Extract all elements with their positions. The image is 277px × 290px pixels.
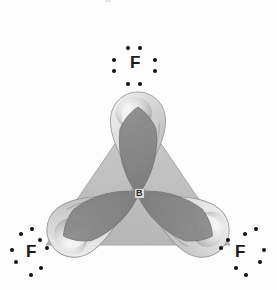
- electron-dot: [29, 273, 33, 277]
- scan-artifact-top: [105, 0, 111, 2]
- electron-dot: [112, 69, 116, 73]
- atom-label-fluorine-bottom-right: F: [235, 243, 245, 260]
- electron-dot: [10, 248, 14, 252]
- electron-dot: [14, 260, 18, 264]
- atom-label-boron: B: [135, 189, 144, 198]
- electron-dot: [226, 238, 230, 242]
- electron-dot: [19, 232, 23, 236]
- electron-dot: [254, 227, 258, 231]
- electron-dot: [112, 58, 116, 62]
- diagram-canvas: B F F F: [0, 0, 277, 290]
- electron-dot: [219, 246, 223, 250]
- electron-dot: [39, 266, 43, 270]
- electron-dot: [244, 273, 248, 277]
- electron-dot: [243, 232, 247, 236]
- electron-dot: [138, 46, 142, 50]
- electron-dot: [234, 266, 238, 270]
- electron-dot: [138, 82, 142, 86]
- atom-label-fluorine-top: F: [130, 54, 140, 71]
- electron-dot: [258, 260, 262, 264]
- electron-dot: [126, 82, 130, 86]
- electron-dot: [262, 248, 266, 252]
- electron-dot: [126, 46, 130, 50]
- electron-dot: [153, 69, 157, 73]
- electron-dot: [153, 58, 157, 62]
- electron-dot: [30, 227, 34, 231]
- atom-label-fluorine-bottom-left: F: [26, 243, 36, 260]
- electron-dot: [45, 246, 49, 250]
- electron-dot: [38, 238, 42, 242]
